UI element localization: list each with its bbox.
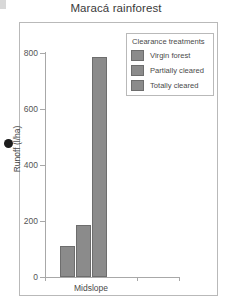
legend-item-virgin-forest[interactable]: Virgin forest	[131, 48, 209, 62]
legend: Clearance treatments Virgin forest Parti…	[126, 33, 214, 96]
legend-swatch-virgin-forest	[131, 50, 144, 61]
x-axis-tick	[45, 277, 46, 281]
bar-partially-cleared[interactable]	[76, 225, 91, 277]
legend-item-totally-cleared[interactable]: Totally cleared	[131, 78, 209, 92]
legend-swatch-partially-cleared	[131, 65, 144, 76]
y-axis-title: Runoff (l/ha)	[12, 99, 22, 199]
legend-label-virgin-forest: Virgin forest	[150, 51, 190, 60]
y-axis-tick	[40, 53, 45, 54]
legend-item-partially-cleared[interactable]: Partially cleared	[131, 63, 209, 77]
y-axis-line	[45, 52, 46, 278]
legend-swatch-totally-cleared	[131, 80, 144, 91]
legend-label-totally-cleared: Totally cleared	[150, 81, 199, 90]
x-axis-tick	[179, 277, 180, 281]
y-axis-tick-label: 0	[2, 272, 38, 282]
chart-title: Maracá rainforest	[0, 2, 232, 14]
y-axis-tick-label: 800	[2, 48, 38, 58]
y-axis-tick	[40, 165, 45, 166]
legend-title: Clearance treatments	[132, 37, 209, 46]
y-axis-tick-label: 200	[2, 216, 38, 226]
y-axis-tick	[40, 109, 45, 110]
x-axis-tick	[137, 277, 138, 281]
x-axis-line	[45, 277, 180, 278]
legend-label-partially-cleared: Partially cleared	[150, 66, 204, 75]
x-axis-category-label: Midslope	[45, 283, 137, 293]
bar-totally-cleared[interactable]	[92, 57, 107, 277]
y-axis-tick	[40, 221, 45, 222]
bar-virgin-forest[interactable]	[60, 246, 75, 277]
